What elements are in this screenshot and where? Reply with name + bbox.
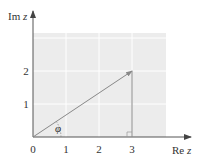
x-tick-label: 0: [30, 143, 36, 155]
x-tick-label: 3: [129, 143, 135, 155]
y-tick-label: 1: [23, 98, 29, 110]
y-axis-label-text: Im: [8, 10, 21, 22]
angle-phi-label: φ: [55, 122, 61, 134]
x-axis-label-text: Re: [172, 144, 184, 156]
y-axis-label: Im z: [8, 10, 28, 22]
x-axis-label: Re z: [172, 144, 192, 156]
x-axis-label-var: z: [186, 144, 192, 156]
x-tick-label: 1: [63, 143, 69, 155]
y-tick-label: 2: [23, 65, 29, 77]
complex-plane-diagram: φ Im z Re z 0123 12: [0, 0, 208, 157]
y-axis-label-var: z: [22, 10, 28, 22]
x-tick-label: 2: [96, 143, 102, 155]
